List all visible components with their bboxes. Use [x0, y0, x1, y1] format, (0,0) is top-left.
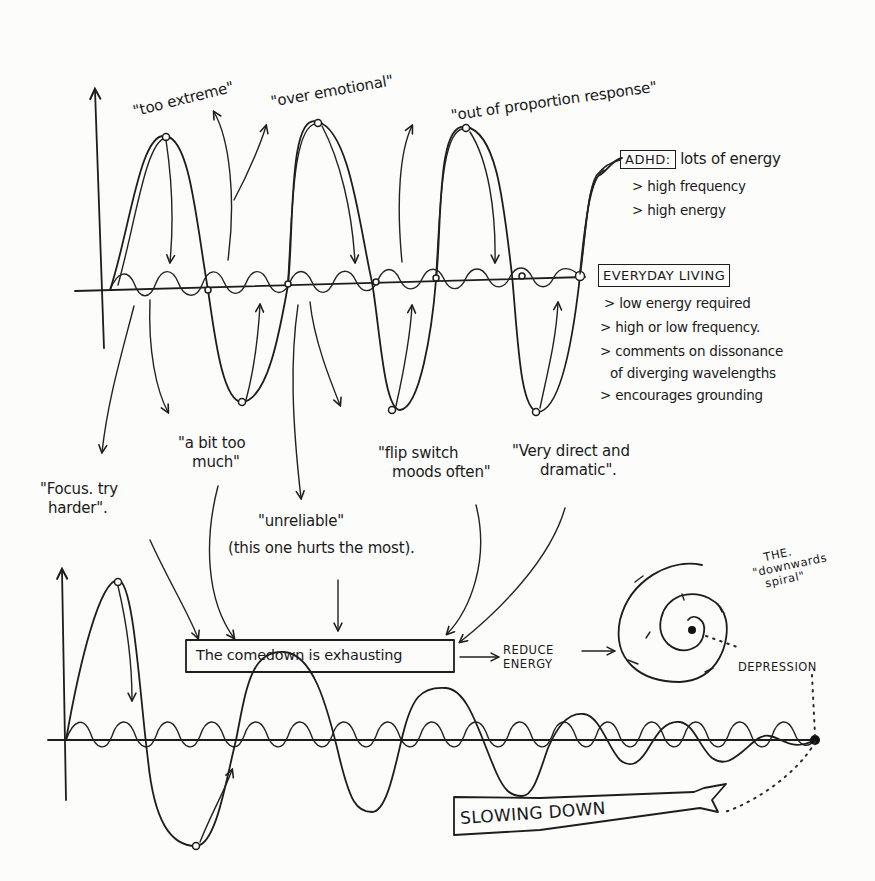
adhd-description: lots of energy [680, 150, 781, 168]
quote-focus-try-harder: "Focus. try harder". [40, 480, 118, 518]
adhd-note: ADHD: lots of energy [620, 150, 781, 169]
adhd-bullet-1: > high frequency [632, 176, 746, 197]
bottom-everyday-wave [66, 722, 815, 747]
everyday-bullet-1: > low energy required [604, 293, 751, 314]
diagram-drawing [0, 0, 875, 881]
adhd-high-energy-wave [110, 121, 622, 412]
everyday-bullet-4: of diverging wavelengths [610, 363, 776, 384]
comedown-text: The comedown is exhausting [196, 646, 402, 665]
reduce-energy-label: REDUCE ENERGY [503, 643, 554, 671]
adhd-bullet-2: > high energy [632, 200, 726, 221]
hand-drawn-diagram: "too extreme" "over emotional" "out of p… [0, 0, 875, 881]
everyday-living-label-box: EVERYDAY LIVING [598, 264, 730, 287]
arrows-to-comedown-box [150, 486, 565, 642]
everyday-bullet-5: > encourages grounding [600, 385, 763, 406]
slowing-down-dotted-link [725, 742, 815, 812]
bottom-axes [48, 570, 815, 800]
everyday-bullet-3: > comments on dissonance [600, 341, 783, 362]
top-axes [75, 90, 585, 348]
depression-label: DEPRESSION [738, 658, 817, 677]
everyday-living-wave [110, 268, 580, 296]
everyday-bullet-2: > high or low frequency. [600, 317, 760, 338]
quote-a-bit-too-much: "a bit too much" [178, 434, 245, 472]
quote-flip-switch: "flip switch moods often" [378, 444, 490, 482]
slowing-down-wave [66, 580, 815, 846]
downward-spiral-icon [619, 564, 727, 682]
adhd-label-box: ADHD: [620, 150, 676, 169]
swing-arrows [166, 126, 558, 408]
arrows-to-top-quotes [214, 112, 412, 262]
quote-very-direct: "Very direct and dramatic". [512, 442, 630, 480]
quote-unreliable: "unreliable" (this one hurts the most). [228, 512, 415, 558]
